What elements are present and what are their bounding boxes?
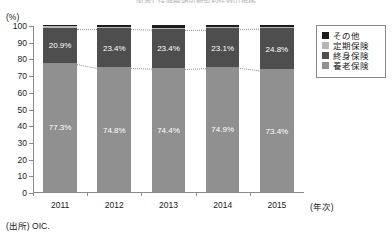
bar-segment-定期保険	[97, 27, 131, 28]
bar-2011: 77.3%20.9%	[43, 25, 77, 192]
x-tick-mark	[196, 192, 197, 196]
bar-2014: 74.9%23.1%	[206, 25, 240, 192]
y-tick-mark	[29, 43, 33, 44]
y-axis-label: 80	[18, 54, 27, 64]
bar-2015: 73.4%24.8%	[260, 25, 294, 192]
x-tick-mark	[87, 192, 88, 196]
x-axis-line	[33, 192, 304, 193]
connector-line	[131, 29, 152, 31]
x-axis-label: 2011	[51, 200, 69, 210]
legend-item-label: 終身保険	[333, 52, 369, 61]
bar-segment-定期保険	[206, 27, 240, 28]
legend-swatch-icon	[322, 42, 329, 49]
bar-value-label: 23.1%	[206, 43, 240, 52]
bar-segment-その他	[206, 25, 240, 27]
y-tick-mark	[29, 59, 33, 60]
y-tick-mark	[29, 126, 33, 127]
x-axis-label: 2012	[105, 200, 124, 210]
bar-segment-定期保険	[152, 28, 186, 29]
bar-2013: 74.4%23.4%	[152, 25, 186, 192]
bar-segment-その他	[43, 25, 77, 26]
y-axis-label: 30	[18, 138, 27, 148]
y-tick-mark	[29, 93, 33, 94]
legend-item-label: 養老保険	[333, 62, 369, 71]
figure: 図表1 保険種類別新契約件数の推移 (%) 100908070605040302…	[0, 0, 392, 240]
legend: その他定期保険終身保険養老保険	[316, 25, 386, 78]
bar-value-label: 74.9%	[206, 125, 240, 134]
legend-swatch-icon	[322, 52, 329, 59]
y-axis-label: 50	[18, 105, 27, 115]
x-axis-title: (年次)	[310, 200, 334, 212]
y-axis-label: 40	[18, 121, 27, 131]
bar-value-label: 24.8%	[260, 44, 294, 53]
bar-value-label: 74.8%	[97, 125, 131, 134]
bar-value-label: 73.4%	[260, 126, 294, 135]
connector-line	[185, 68, 206, 70]
legend-item-label: その他	[333, 32, 360, 41]
y-axis-label: 70	[18, 71, 27, 81]
bar-2012: 74.8%23.4%	[97, 25, 131, 192]
source-note: (出所) OIC.	[6, 219, 50, 231]
x-axis-label: 2015	[267, 200, 286, 210]
y-axis-line	[33, 26, 34, 193]
chart-title: 図表1 保険種類別新契約件数の推移	[0, 0, 392, 3]
bar-value-label: 23.4%	[152, 44, 186, 53]
x-axis-label: 2013	[159, 200, 178, 210]
legend-item-2[interactable]: 終身保険	[322, 52, 381, 61]
bar-segment-定期保険	[43, 26, 77, 28]
bar-value-label: 20.9%	[43, 41, 77, 50]
y-tick-mark	[29, 143, 33, 144]
x-tick-mark	[250, 192, 251, 196]
plot-area: 1009080706050403020100 20112012201320142…	[33, 26, 304, 193]
x-tick-mark	[141, 192, 142, 196]
legend-item-label: 定期保険	[333, 42, 369, 51]
legend-item-3[interactable]: 養老保険	[322, 62, 381, 71]
legend-item-0[interactable]: その他	[322, 32, 381, 41]
y-tick-mark	[29, 76, 33, 77]
y-tick-mark	[29, 110, 33, 111]
y-axis-label: 0	[22, 188, 27, 198]
bar-segment-定期保険	[260, 27, 294, 28]
bar-segment-その他	[97, 25, 131, 27]
y-axis-label: 100	[13, 21, 27, 31]
bar-value-label: 23.4%	[97, 43, 131, 52]
connector-line	[239, 68, 260, 71]
y-tick-mark	[29, 176, 33, 177]
legend-item-1[interactable]: 定期保険	[322, 42, 381, 51]
connector-line	[240, 29, 261, 30]
y-tick-mark	[29, 160, 33, 161]
y-axis-label: 90	[18, 38, 27, 48]
y-tick-mark	[29, 26, 33, 27]
bar-segment-その他	[260, 25, 294, 27]
legend-swatch-icon	[322, 32, 329, 39]
legend-swatch-icon	[322, 62, 329, 69]
bar-value-label: 74.4%	[152, 125, 186, 134]
connector-line	[77, 64, 98, 69]
x-axis-label: 2014	[213, 200, 232, 210]
x-tick-mark	[33, 192, 34, 196]
y-axis-label: 60	[18, 88, 27, 98]
y-axis-label: 10	[18, 171, 27, 181]
y-axis-label: 20	[18, 155, 27, 165]
bar-segment-その他	[152, 25, 186, 28]
connector-line	[131, 68, 152, 70]
bar-value-label: 77.3%	[43, 123, 77, 132]
connector-line	[77, 29, 98, 30]
connector-line	[185, 29, 206, 30]
